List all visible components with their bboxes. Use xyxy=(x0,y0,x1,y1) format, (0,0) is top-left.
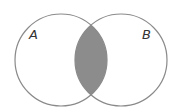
set-a-label: A xyxy=(28,27,38,42)
set-b-label: B xyxy=(142,27,151,42)
venn-diagram: A B xyxy=(0,0,175,112)
